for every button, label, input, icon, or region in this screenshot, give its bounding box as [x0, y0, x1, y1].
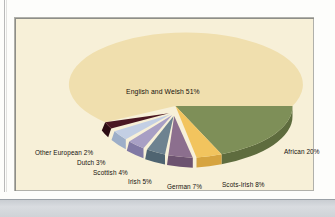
scanned-page: English and Welsh 51% African 20% Scots-…	[0, 0, 335, 217]
slice-label-german: German 7%	[167, 184, 202, 190]
slice-label-african: African 20%	[284, 149, 320, 155]
slice-label-scottish: Scottish 4%	[93, 170, 128, 176]
chart-panel: English and Welsh 51% African 20% Scots-…	[14, 17, 314, 191]
slice-label-english-and-welsh: English and Welsh 51%	[126, 89, 200, 96]
page-gutter-line	[4, 0, 5, 192]
pie-chart-svg	[15, 18, 315, 192]
pie-chart: English and Welsh 51% African 20% Scots-…	[15, 18, 315, 192]
slice-label-other-european: Other European 2%	[35, 150, 93, 156]
slice-label-irish: Irish 5%	[128, 179, 152, 185]
slice-label-scots-irish: Scots-Irish 8%	[222, 182, 265, 188]
bottom-strip	[0, 200, 335, 217]
page-gutter-line-secondary	[6, 0, 7, 192]
slice-label-dutch: Dutch 3%	[77, 160, 106, 166]
